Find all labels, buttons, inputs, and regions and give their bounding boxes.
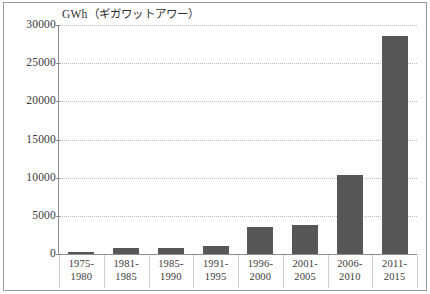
x-label-line-2: 2015 [372,270,417,283]
x-label-line-2: 1985 [104,270,149,283]
x-axis-tick-labels: 1975-19801981-19851985-19901991-19951996… [59,257,417,289]
y-axis-tick-row: 15000 [0,134,56,146]
x-label-line-1: 1996- [238,257,283,270]
x-label-line-2: 1990 [149,270,194,283]
x-label-line-2: 2000 [238,270,283,283]
y-axis-tick-label: 0 [4,248,56,260]
bar[interactable] [158,248,184,254]
bar[interactable] [382,36,408,254]
y-axis-tick-labels: 050001000015000200002500030000 [0,0,56,294]
x-axis-tick-label: 1991-1995 [193,257,238,283]
bar[interactable] [337,175,363,254]
bar-slot [372,25,417,254]
y-axis-title: GWh（ギガワットアワー） [62,5,200,21]
x-label-line-1: 1985- [149,257,194,270]
bar[interactable] [292,225,318,254]
y-axis-tick-row: 5000 [0,210,56,222]
y-axis-tick-label: 20000 [4,95,56,107]
x-axis-tick-label: 1985-1990 [149,257,194,283]
y-axis-tick-label: 25000 [4,57,56,69]
bar[interactable] [247,227,273,254]
category-separator-edge [417,255,418,288]
bar-slot [59,25,104,254]
y-axis-tick-row: 0 [0,248,56,260]
x-label-line-1: 2006- [328,257,373,270]
x-label-line-2: 1995 [193,270,238,283]
chart-screenshot: GWh（ギガワットアワー） 05000100001500020000250003… [0,0,430,294]
bar-slot [193,25,238,254]
x-label-line-1: 2011- [372,257,417,270]
bar-slot [328,25,373,254]
x-axis-tick-label: 2011-2015 [372,257,417,283]
y-axis-tick-row: 20000 [0,95,56,107]
y-axis-tick-label: 30000 [4,19,56,31]
bar[interactable] [203,246,229,254]
bar-slot [104,25,149,254]
y-axis-tick-row: 25000 [0,57,56,69]
x-axis-tick-label: 1981-1985 [104,257,149,283]
x-label-line-2: 2010 [328,270,373,283]
x-label-line-2: 2005 [283,270,328,283]
bar[interactable] [113,248,139,254]
x-axis-tick-label: 2006-2010 [328,257,373,283]
y-axis-tick-row: 10000 [0,172,56,184]
bar-slot [283,25,328,254]
bar-slot [149,25,194,254]
x-axis-tick-label: 1996-2000 [238,257,283,283]
x-axis-tick-label: 1975-1980 [59,257,104,283]
x-label-line-1: 1975- [59,257,104,270]
y-axis-tick-label: 10000 [4,172,56,184]
x-axis-tick-label: 2001-2005 [283,257,328,283]
x-label-line-1: 2001- [283,257,328,270]
bar-chart: GWh（ギガワットアワー） 05000100001500020000250003… [0,0,430,294]
bar[interactable] [68,252,94,254]
y-axis-tick-row: 30000 [0,19,56,31]
y-axis-tick-label: 15000 [4,134,56,146]
x-label-line-1: 1991- [193,257,238,270]
bars-group [59,25,417,254]
y-axis-tick-label: 5000 [4,210,56,222]
x-label-line-2: 1980 [59,270,104,283]
bar-slot [238,25,283,254]
x-label-line-1: 1981- [104,257,149,270]
